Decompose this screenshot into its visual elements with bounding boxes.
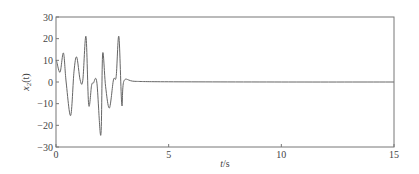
y-tick-label: 30	[43, 12, 53, 23]
x-axis-label-unit: /s	[223, 158, 230, 169]
x-tick-label: 10	[276, 149, 286, 160]
y-tick-label: −30	[37, 142, 53, 153]
y-tick-label: 0	[48, 77, 53, 88]
line-chart: 3020100−10−20−30 051015 t/s x2(t)	[0, 0, 419, 174]
x-tick-label: 5	[166, 149, 171, 160]
x-tick-label: 15	[389, 149, 399, 160]
y-axis-label: x2(t)	[20, 73, 33, 91]
y-tick-label: 10	[43, 55, 53, 66]
x-axis-label: t/s	[220, 158, 230, 169]
y-tick-label: 20	[43, 33, 53, 44]
x-tick-label: 0	[54, 149, 59, 160]
y-tick-label: −20	[37, 120, 53, 131]
signal-line-x2	[56, 36, 394, 135]
y-axis-label-suffix: (t)	[20, 73, 32, 82]
y-tick-label: −10	[37, 98, 53, 109]
